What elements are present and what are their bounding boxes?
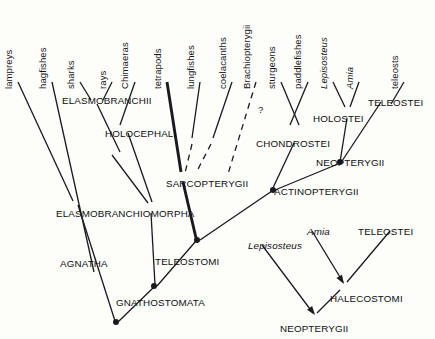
clade-label-agnatha: AGNATHA — [60, 258, 108, 269]
tip-label-lungfishes: lungfishes — [185, 45, 196, 89]
coelacanths-branch — [213, 82, 232, 138]
uncertainty-question-mark-0: ? — [258, 104, 263, 115]
tip-label-paddlefishes: paddlefishes — [292, 34, 303, 89]
tip-label-lampreys: lampreys — [3, 50, 14, 89]
lungfishes-branch — [192, 82, 200, 138]
inset-label-halecostomi: HALECOSTOMI — [330, 293, 403, 304]
clade-label-actinopterygii: ACTINOPTERYGII — [274, 186, 359, 197]
elasmo-to-gnatho — [151, 213, 155, 285]
clade-label-neopterygii: NEOPTERYGII — [316, 157, 384, 168]
tip-label-tetrapods: tetrapods — [152, 48, 163, 89]
tip-label-chimaeras: Chimaeras — [119, 42, 130, 89]
tip-label-sturgeons: sturgeons — [266, 46, 277, 89]
arrow-halecostomi — [337, 275, 347, 286]
node-gnathostomata — [151, 283, 157, 289]
actinopterygii-stem — [200, 191, 272, 240]
clade-label-teleostomi: TELEOSTOMI — [155, 256, 219, 267]
inset-label-neopterygii: NEOPTERYGII — [280, 323, 348, 334]
tip-label-rays: rays — [97, 71, 108, 89]
coelacanths-dash — [196, 144, 211, 173]
inset-label-amia: Amia — [307, 226, 330, 237]
cladogram-figure: lampreyshagfishessharksraysChimaerastetr… — [0, 0, 435, 339]
node-agnatha — [113, 319, 119, 325]
tip-label-amia: Amia — [344, 67, 355, 89]
teleostei-to-neopterygii — [342, 102, 381, 161]
elasmobranchiomorpha-stem — [112, 155, 148, 203]
tetrapods-branch — [167, 82, 181, 172]
node-teleostomi — [194, 237, 200, 243]
lungfishes-dash — [185, 144, 192, 173]
tip-branch-group — [18, 82, 404, 272]
tip-label-hagfishes: hagfishes — [37, 47, 48, 89]
tip-label-brachiopterygii: Brachiopterygii — [241, 25, 252, 89]
clade-label-chondrostei: CHONDROSTEI — [256, 138, 330, 149]
tip-label-coelacanths: coelacanths — [217, 37, 228, 89]
inset-lepisosteus-branch — [262, 245, 313, 313]
inset-label-teleostei: TELEOSTEI — [358, 226, 413, 237]
clade-label-sarcopterygii: SARCOPTERYGII — [166, 178, 248, 189]
clade-label-holostei: HOLOSTEI — [313, 113, 364, 124]
tip-label-sharks: sharks — [65, 60, 76, 89]
clade-label-elasmobranchiomorpha: ELASMOBRANCHIOMORPHA — [56, 208, 195, 219]
inset-label-lepisosteus: Lepisosteus — [248, 240, 302, 251]
clade-label-elasmobranchii: ELASMOBRANCHII — [62, 95, 152, 106]
clade-label-teleostei: TELEOSTEI — [368, 97, 423, 108]
inset-teleostei-branch — [347, 231, 390, 282]
inset-amia-branch — [312, 231, 343, 282]
tip-label-lepisosteus: Lepisosteus — [318, 37, 329, 89]
clade-label-holocephali: HOLOCEPHALI — [105, 128, 176, 139]
hagfishes-branch — [52, 82, 94, 272]
clade-label-gnathostomata: GNATHOSTOMATA — [116, 297, 205, 308]
brachiopterygii-dash — [228, 82, 256, 174]
tip-label-teleosts: teleosts — [389, 55, 400, 89]
